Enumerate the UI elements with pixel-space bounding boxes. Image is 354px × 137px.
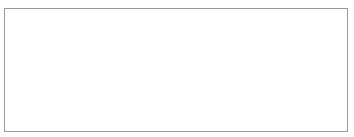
chart-container: % of GDP 0%-2%-4%-6%-8%-10% 200520062007… [0,0,354,137]
chart-frame [4,8,348,132]
